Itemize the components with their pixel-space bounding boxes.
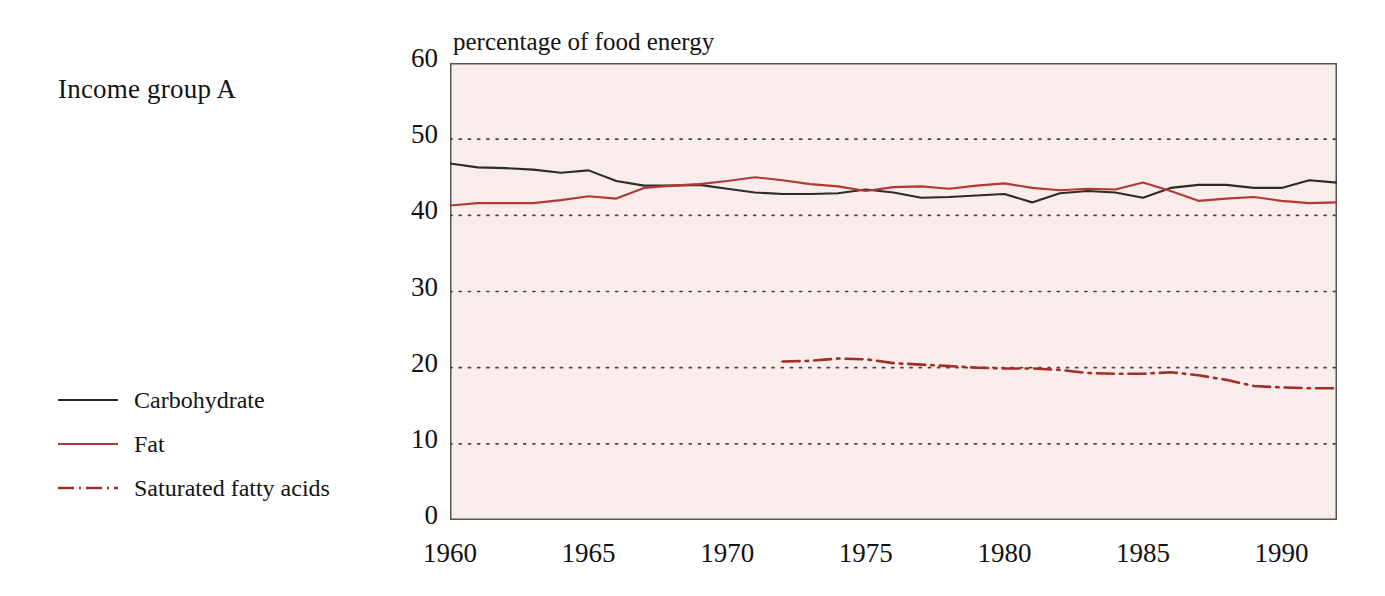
series-line-fat: [450, 177, 1337, 205]
series-line-saturated-fatty-acids: [783, 359, 1337, 394]
x-tick-label-1970: 1970: [700, 540, 754, 567]
x-tick-label-1960: 1960: [423, 540, 477, 567]
chart-figure: Income group A Carbohydrate Fat: [0, 0, 1385, 596]
x-tick-label-1980: 1980: [977, 540, 1031, 567]
x-tick-label-1990: 1990: [1255, 540, 1309, 567]
plot-svg: [450, 63, 1337, 520]
x-tick-label-1965: 1965: [562, 540, 616, 567]
x-tick-label-1985: 1985: [1116, 540, 1170, 567]
plot-area: [450, 63, 1337, 520]
x-tick-label-1975: 1975: [839, 540, 893, 567]
